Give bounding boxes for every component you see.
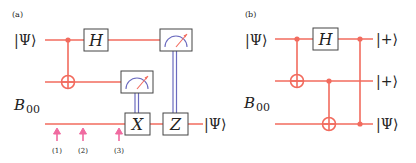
bell-B: B (13, 96, 25, 114)
panel-a-input-psi: |Ψ⟩ (14, 32, 36, 49)
gate-h-label: H (88, 31, 104, 50)
quantum-circuit-figure: (a) |Ψ⟩ B 00 H (0, 0, 416, 163)
step-label-3: (3) (114, 147, 124, 155)
step-arrows (54, 128, 123, 141)
svg-text:B: B (243, 94, 255, 112)
panel-b-input-psi: |Ψ⟩ (245, 32, 267, 49)
step-label-1: (1) (52, 147, 62, 155)
panel-a-tag: (a) (12, 10, 23, 19)
svg-text:00: 00 (256, 101, 270, 114)
control-dot (326, 78, 331, 83)
output-1: |+⟩ (376, 31, 398, 48)
bell-sub: 00 (26, 103, 40, 116)
panel-a-output-psi: |Ψ⟩ (204, 116, 226, 133)
panel-a-bell-label: B 00 (13, 96, 40, 116)
output-3: |Ψ⟩ (376, 116, 398, 133)
panel-b: (b) |Ψ⟩ B 00 H |+⟩ |+⟩ |Ψ⟩ (243, 10, 398, 133)
meter-icon (160, 29, 192, 51)
gate-z-label: Z (169, 115, 182, 134)
gate-h-label: H (318, 30, 334, 49)
output-2: |+⟩ (376, 73, 398, 90)
control-dot (294, 36, 299, 41)
meter-icon (121, 71, 153, 93)
gate-x-label: X (130, 115, 144, 134)
control-dot (65, 37, 70, 42)
control-dot (357, 36, 362, 41)
panel-a: (a) |Ψ⟩ B 00 H (12, 10, 226, 155)
control-dot (357, 121, 362, 126)
panel-b-tag: (b) (245, 10, 256, 19)
panel-b-bell-label: B 00 (243, 94, 270, 114)
step-label-2: (2) (78, 147, 88, 155)
